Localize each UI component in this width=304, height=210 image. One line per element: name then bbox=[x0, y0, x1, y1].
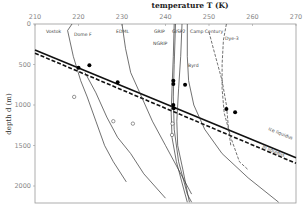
filled-marker bbox=[233, 110, 237, 114]
y-tick-label: 1000 bbox=[14, 101, 31, 109]
y-tick-label: 2000 bbox=[14, 182, 31, 190]
x-tick-label: 240 bbox=[159, 13, 171, 21]
y-axis-label: depth d (m) bbox=[5, 93, 13, 135]
open-marker bbox=[72, 95, 75, 98]
series-label-ngrip: NGRIP bbox=[153, 41, 168, 46]
series-label-edml: EDML bbox=[116, 29, 129, 34]
y-tick-label: 0 bbox=[27, 20, 31, 28]
series-label-dye-3: Dye-3 bbox=[225, 36, 239, 41]
filled-marker bbox=[116, 80, 120, 84]
x-tick-label: 270 bbox=[290, 13, 302, 21]
series-label-vostok: Vostok bbox=[46, 29, 62, 34]
plot-frame bbox=[35, 24, 296, 203]
reference-line-ice-liquidus bbox=[35, 50, 296, 158]
filled-marker bbox=[87, 63, 91, 67]
series-label-dome-f: Dome F bbox=[74, 32, 92, 37]
y-axis-ticks: 0500100015002000 bbox=[14, 20, 35, 190]
open-marker bbox=[112, 120, 115, 123]
x-tick-label: 230 bbox=[116, 13, 128, 21]
filled-marker bbox=[171, 82, 175, 86]
filled-marker bbox=[224, 107, 228, 111]
x-tick-label: 220 bbox=[72, 13, 84, 21]
series-label-camp-century: Camp Century bbox=[190, 29, 223, 34]
y-tick-label: 1500 bbox=[14, 142, 31, 150]
series-lines bbox=[68, 24, 279, 202]
reference-label: Ih liquidus bbox=[262, 144, 286, 158]
reference-lines bbox=[35, 50, 296, 163]
series-line-byrd bbox=[187, 24, 278, 202]
y-tick-label: 500 bbox=[19, 61, 31, 69]
x-tick-label: 250 bbox=[203, 13, 215, 21]
open-marker bbox=[171, 122, 174, 125]
series-label-byrd: Byrd bbox=[188, 63, 199, 68]
filled-marker bbox=[77, 66, 81, 70]
open-marker bbox=[131, 122, 134, 125]
x-tick-label: 260 bbox=[246, 13, 258, 21]
reference-line-ih-liquidus bbox=[35, 53, 296, 163]
chart-title: temperature T (K) bbox=[151, 1, 228, 10]
open-marker bbox=[170, 133, 173, 136]
series-line-dye-3 bbox=[222, 24, 248, 170]
reference-label: ice liquidus bbox=[268, 126, 295, 141]
temperature-depth-chart: temperature T (K) 210220230240250260270 … bbox=[0, 0, 304, 210]
series-line-vostok bbox=[68, 24, 127, 182]
filled-marker bbox=[183, 83, 187, 87]
series-label-grip: GRIP bbox=[154, 29, 165, 34]
series-label-gisp2: GISP2 bbox=[172, 29, 186, 34]
series-labels: VostokDome FEDMLGRIPNGRIPGISP2ByrdCamp C… bbox=[46, 29, 294, 158]
filled-marker bbox=[172, 106, 176, 110]
